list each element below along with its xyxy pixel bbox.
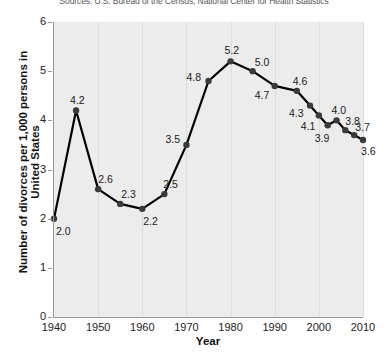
x-tick-label: 1980 [208,321,254,333]
line-series-layer [54,22,363,317]
data-label: 2.5 [163,179,178,190]
y-tick-label: 2 [24,213,46,224]
y-tick-mark [48,268,52,269]
y-tick-label: 1 [24,262,46,273]
data-point-marker [272,83,278,89]
data-label: 3.6 [361,146,376,157]
x-tick-label: 2000 [296,321,342,333]
y-tick-mark [48,170,52,171]
data-label: 4.2 [70,95,85,106]
data-label: 3.5 [165,134,180,145]
data-label: 4.8 [187,72,202,83]
data-point-marker [342,127,348,133]
chart-figure: Sources: U.S. Bureau of the Census; Nati… [0,0,388,355]
data-point-marker [360,137,366,143]
y-tick-mark [48,219,52,220]
data-point-marker [205,78,211,84]
data-point-marker [117,201,123,207]
data-point-marker [73,107,79,113]
plot-area [54,22,364,317]
y-tick-mark [48,22,52,23]
source-note: Sources: U.S. Bureau of the Census; Nati… [0,0,388,6]
data-label: 4.6 [293,76,308,87]
data-point-marker [227,58,233,64]
y-axis-tick-labels: 0123456 [20,0,46,355]
y-tick-mark [48,71,52,72]
x-tick-label: 1940 [31,321,77,333]
y-tick-mark [48,317,52,318]
data-point-marker [333,117,339,123]
data-point-marker [95,186,101,192]
x-tick-label: 1950 [75,321,121,333]
x-tick-label: 1990 [252,321,298,333]
y-tick-mark [48,120,52,121]
data-label: 3.9 [315,133,330,144]
data-point-marker [316,112,322,118]
y-tick-label: 3 [24,164,46,175]
data-point-marker [324,122,330,128]
data-point-marker [307,102,313,108]
data-label: 2.2 [143,216,158,227]
data-label: 2.6 [98,174,113,185]
x-axis-label: Year [53,335,363,347]
data-label: 4.1 [301,121,316,132]
data-point-marker [294,88,300,94]
gridline [363,22,364,317]
y-axis-line [53,22,54,318]
data-label: 4.7 [255,90,270,101]
data-label: 3.7 [355,122,370,133]
x-tick-label: 1960 [119,321,165,333]
y-tick-label: 6 [24,16,46,27]
data-label: 4.0 [332,105,347,116]
y-tick-label: 4 [24,114,46,125]
data-point-marker [249,68,255,74]
data-label: 4.3 [289,108,304,119]
data-point-marker [161,191,167,197]
data-label: 5.2 [225,45,240,56]
data-label: 2.0 [56,226,71,237]
y-tick-label: 5 [24,65,46,76]
data-point-marker [183,142,189,148]
data-point-marker [139,206,145,212]
x-tick-label: 2010 [340,321,386,333]
data-label: 5.0 [255,57,270,68]
data-label: 2.3 [121,189,136,200]
x-axis-line [53,317,363,318]
x-tick-label: 1970 [163,321,209,333]
